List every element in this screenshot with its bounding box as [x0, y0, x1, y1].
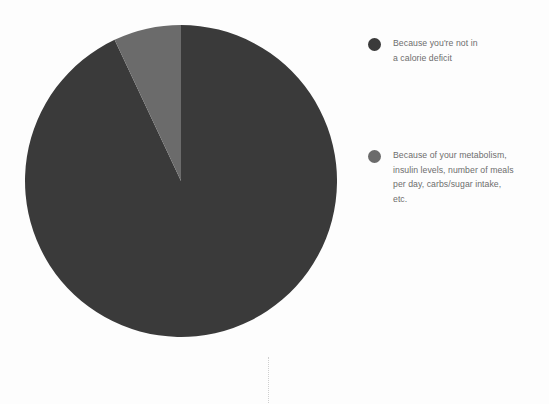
- pie-chart-plot-area: [25, 25, 337, 337]
- dotted-divider: [268, 357, 269, 403]
- pie-slice-group: [25, 25, 337, 337]
- legend-item-label: Because of your metabolism, insulin leve…: [393, 148, 514, 206]
- pie-chart-figure: Because you're not in a calorie deficit …: [0, 0, 549, 404]
- legend-item-calorie-deficit[interactable]: Because you're not in a calorie deficit: [368, 36, 478, 65]
- legend-item-label: Because you're not in a calorie deficit: [393, 36, 478, 65]
- pie-slice[interactable]: [25, 25, 337, 337]
- legend-item-metabolism[interactable]: Because of your metabolism, insulin leve…: [368, 148, 514, 206]
- legend-swatch-icon: [368, 150, 381, 163]
- pie-svg: [25, 25, 337, 337]
- legend-swatch-icon: [368, 38, 381, 51]
